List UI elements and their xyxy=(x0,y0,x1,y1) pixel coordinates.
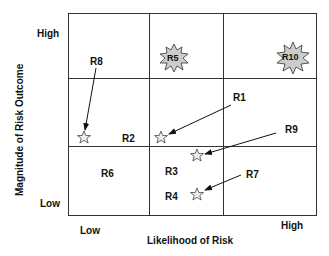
risk-label-r7: R7 xyxy=(246,170,259,180)
risk-label-r2: R2 xyxy=(122,134,135,144)
risk-label-r3: R3 xyxy=(165,167,178,177)
arrow-r9 xyxy=(205,133,276,154)
y-axis-high-label: High xyxy=(37,29,59,39)
arrow-r8 xyxy=(85,68,96,130)
y-axis-title: Magnitude of Risk Outcome xyxy=(14,64,25,196)
risk-label-r1: R1 xyxy=(233,93,246,103)
x-axis-high-label: High xyxy=(281,221,303,231)
x-axis-title: Likelihood of Risk xyxy=(147,236,233,246)
arrow-r1 xyxy=(169,105,231,134)
risk-label-r9: R9 xyxy=(285,125,298,135)
star-icon-r8-r2 xyxy=(78,131,91,143)
star-icon-r7 xyxy=(191,188,204,200)
risk-label-r5: R5 xyxy=(167,54,179,63)
star-icon-r1 xyxy=(155,131,168,143)
risk-label-r8: R8 xyxy=(90,57,103,67)
risk-label-r4: R4 xyxy=(165,192,178,202)
star-icon-r9 xyxy=(191,149,204,161)
risk-label-r10: R10 xyxy=(282,53,299,62)
risk-label-r6: R6 xyxy=(101,169,114,179)
x-axis-low-label: Low xyxy=(80,226,100,236)
matrix-grid xyxy=(69,14,317,216)
y-axis-low-label: Low xyxy=(40,199,60,209)
